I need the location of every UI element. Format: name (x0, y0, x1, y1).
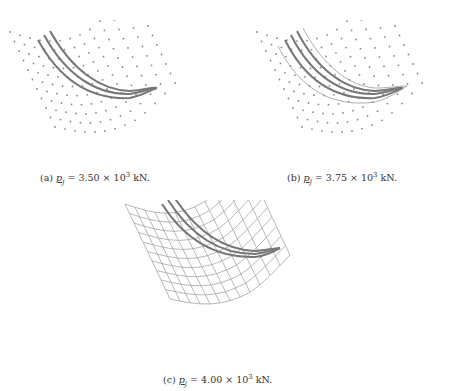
panel-c-plot (100, 200, 350, 350)
panel-a-plot (0, 20, 225, 150)
saddle-grid-plot-c (100, 200, 350, 350)
saddle-dot-plot-a (0, 20, 225, 150)
caption-b: (b) pj = 3.75 × 103 kN. (287, 171, 397, 186)
saddle-dot-plot-b (225, 20, 451, 150)
caption-a: (a) pj = 3.50 × 103 kN. (40, 171, 150, 186)
caption-c: (c) pj = 4.00 × 103 kN. (163, 373, 272, 388)
panel-b-plot (225, 20, 451, 150)
